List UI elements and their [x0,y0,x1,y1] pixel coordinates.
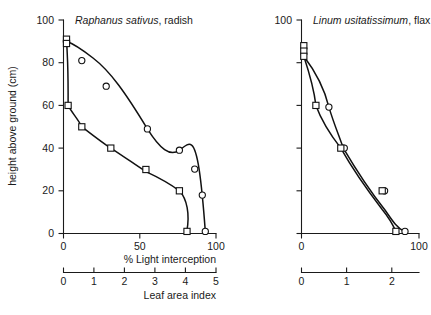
radish-y-tick-labels: 0 20 40 60 80 100 [36,14,54,240]
flax-square-markers [301,43,399,235]
x-axis-title-light-interception: % Light interception [124,253,216,265]
radish-y-ticks [59,20,64,234]
radish-ytick-80: 80 [42,56,54,68]
radish-lai-tick-3: 3 [152,275,158,287]
radish-ytick-20: 20 [42,184,54,196]
radish-lai-tick-5: 5 [213,275,219,287]
radish-ytick-0: 0 [48,227,54,239]
radish-lai-tick-4: 4 [182,275,188,287]
radish-xtick-100: 100 [207,240,225,252]
flax-x-ticks [302,234,420,239]
radish-x-tick-labels: 0 50 100 [61,240,225,252]
flax-common-name: , flax [408,14,431,26]
radish-circle-curve [67,41,206,231]
radish-ytick-60: 60 [42,99,54,111]
y-axis-title: height above ground (cm) [6,66,18,186]
flax-circle-curve [304,56,404,231]
flax-lai-tick-2: 2 [389,275,395,287]
flax-lai-tick-0: 0 [299,275,305,287]
flax-lai-tick-1: 1 [344,275,350,287]
radish-lai-tick-2: 2 [121,275,127,287]
radish-lai-tick-1: 1 [91,275,97,287]
radish-x-ticks [64,234,217,239]
radish-ytick-100: 100 [36,14,54,26]
flax-xtick-0: 0 [299,240,305,252]
figure-container: 0 20 40 60 80 100 0 50 100 Raphanus sati… [0,0,431,315]
panel-flax: 100 0 100 Linum usitatissimum, flax [274,14,431,288]
flax-square-curve [304,48,396,232]
x-axis-title-leaf-area-index: Leaf area index [144,289,217,301]
radish-species-name: Raphanus sativus [75,14,159,26]
radish-lai-tick-0: 0 [61,275,67,287]
flax-leaf-area-axis [302,268,420,273]
radish-panel-title: Raphanus sativus, radish [75,14,193,26]
flax-species-name: Linum usitatissimum [313,14,408,26]
radish-leaf-area-tick-labels: 0 1 2 3 4 5 [61,275,220,287]
radish-square-curve [67,39,189,231]
figure-svg: 0 20 40 60 80 100 0 50 100 Raphanus sati… [0,0,431,315]
radish-common-name: , radish [158,14,193,26]
radish-xtick-0: 0 [61,240,67,252]
flax-circle-markers [326,104,408,234]
panel-radish: 0 20 40 60 80 100 0 50 100 Raphanus sati… [36,14,224,288]
flax-xtick-100: 100 [410,240,428,252]
radish-xtick-50: 50 [134,240,146,252]
radish-ytick-40: 40 [42,142,54,154]
flax-ytick-100: 100 [274,14,292,26]
flax-leaf-area-tick-labels: 0 1 2 [299,275,395,287]
radish-square-markers [63,36,190,234]
radish-leaf-area-axis [64,268,217,273]
flax-panel-title: Linum usitatissimum, flax [313,14,431,26]
flax-x-tick-labels: 0 100 [299,240,428,252]
